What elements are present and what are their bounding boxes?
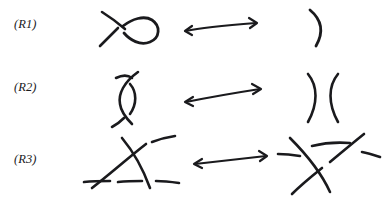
move-label-r2: (R2) bbox=[14, 80, 74, 95]
move-row-r1: (R1) ⟷ bbox=[0, 0, 388, 70]
diagram-r2-right bbox=[294, 66, 364, 136]
equivalence-arrow-r3: ⟷ bbox=[192, 148, 274, 188]
move-label-r1: (R1) bbox=[14, 17, 74, 32]
move-row-r2: (R2) ⟷ bbox=[0, 66, 388, 136]
diagram-r1-right bbox=[296, 0, 356, 70]
diagram-r1-left bbox=[92, 0, 172, 70]
equivalence-arrow-r2: ⟷ bbox=[182, 82, 268, 122]
move-label-r3: (R3) bbox=[14, 152, 74, 167]
reidemeister-moves-figure: (R1) ⟷ bbox=[0, 0, 388, 218]
diagram-r3-left bbox=[80, 130, 185, 200]
diagram-r3-right bbox=[276, 130, 386, 200]
equivalence-arrow-r1: ⟷ bbox=[182, 14, 264, 54]
move-row-r3: (R3) bbox=[0, 130, 388, 200]
diagram-r2-left bbox=[98, 66, 168, 136]
